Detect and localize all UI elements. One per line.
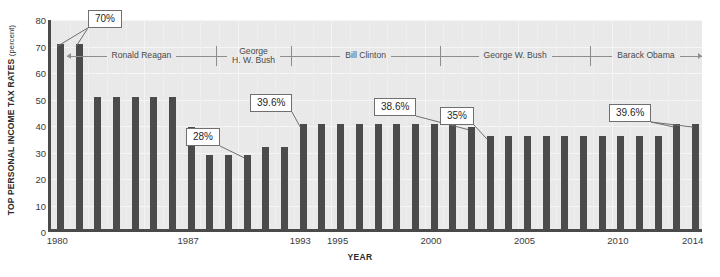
era-label: George W. Bush — [479, 51, 552, 61]
bar — [543, 136, 550, 229]
x-tick-label: 2010 — [607, 235, 628, 246]
x-tick-label: 2005 — [514, 235, 535, 246]
bar — [599, 136, 606, 229]
era-label: Barack Obama — [612, 51, 679, 61]
era-label: GeorgeH. W. Bush — [227, 47, 280, 66]
bar — [76, 44, 83, 230]
y-tick-label: 60 — [22, 68, 46, 79]
y-tick-label: 80 — [22, 15, 46, 26]
value-callout: 70% — [88, 10, 122, 28]
era-rule-left — [291, 56, 340, 57]
bar — [150, 97, 157, 230]
value-callout: 38.6% — [374, 98, 416, 116]
bar — [636, 136, 643, 229]
y-tick-label: 40 — [22, 121, 46, 132]
value-callout: 35% — [440, 107, 474, 125]
bar — [617, 136, 624, 229]
president-era: GeorgeH. W. Bush — [216, 45, 291, 67]
x-tick-label: 1995 — [327, 235, 348, 246]
bar — [505, 136, 512, 229]
bar — [412, 124, 419, 229]
value-callout: 39.6% — [250, 94, 292, 112]
bar — [262, 147, 269, 229]
x-axis-ticks: 19801987199319952000200520102014 — [0, 235, 720, 251]
chart-root: TOP PERSONAL INCOME TAX RATES (percent) … — [0, 0, 720, 277]
president-era: Ronald Reagan — [67, 45, 216, 67]
bar — [468, 127, 475, 229]
bar — [94, 97, 101, 230]
era-rule-right — [176, 56, 216, 57]
bar — [524, 136, 531, 229]
y-tick-label: 70 — [22, 41, 46, 52]
x-tick-label: 1987 — [178, 235, 199, 246]
bar — [300, 124, 307, 229]
value-callout: 39.6% — [609, 104, 651, 122]
president-era: Barack Obama — [590, 45, 702, 67]
era-rule-right — [280, 56, 291, 57]
era-label: Ronald Reagan — [107, 51, 177, 61]
bar — [57, 44, 64, 230]
era-rule-right — [680, 56, 702, 57]
x-tick-label: 1993 — [290, 235, 311, 246]
era-divider — [291, 46, 292, 66]
bar — [318, 124, 325, 229]
bar — [431, 124, 438, 229]
bar — [132, 97, 139, 230]
bar — [393, 124, 400, 229]
bar — [487, 136, 494, 229]
x-tick-label: 2000 — [420, 235, 441, 246]
y-tick-label: 20 — [22, 174, 46, 185]
era-rule-left — [440, 56, 478, 57]
y-tick-label: 50 — [22, 94, 46, 105]
era-divider — [216, 46, 217, 66]
y-tick-label: 10 — [22, 200, 46, 211]
bar — [692, 124, 699, 229]
era-rule-right — [552, 56, 590, 57]
era-rule-left — [590, 56, 612, 57]
era-rule-right — [391, 56, 440, 57]
x-tick-label: 2014 — [682, 235, 703, 246]
bar — [225, 155, 232, 229]
era-divider — [440, 46, 441, 66]
president-era: Bill Clinton — [291, 45, 440, 67]
bar — [113, 97, 120, 230]
x-axis-title: YEAR — [0, 252, 720, 262]
era-rule-left — [216, 56, 227, 57]
bar — [561, 136, 568, 229]
bar — [449, 125, 456, 229]
bar — [281, 147, 288, 229]
y-tick-label: 30 — [22, 147, 46, 158]
president-era: George W. Bush — [440, 45, 589, 67]
bar — [206, 155, 213, 229]
bar — [356, 124, 363, 229]
bar — [169, 97, 176, 230]
bar — [673, 124, 680, 229]
bar — [655, 136, 662, 229]
x-tick-label: 1980 — [47, 235, 68, 246]
value-callout: 28% — [186, 128, 220, 146]
bar — [375, 124, 382, 229]
era-divider — [590, 46, 591, 66]
bar — [580, 136, 587, 229]
bar — [337, 124, 344, 229]
bar — [244, 155, 251, 229]
era-label: Bill Clinton — [340, 51, 391, 61]
era-rule-left — [67, 56, 107, 57]
